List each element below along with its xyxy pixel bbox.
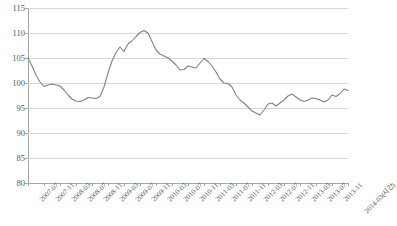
x-tick-mark	[316, 183, 317, 186]
y-axis-labels: 80859095100105110115	[0, 8, 25, 183]
x-tick-mark	[188, 183, 189, 186]
y-tick-label: 80	[17, 179, 26, 188]
x-tick-mark	[204, 183, 205, 186]
x-tick-mark	[140, 183, 141, 186]
y-tick-label: 95	[17, 104, 26, 113]
series-polyline	[28, 31, 348, 116]
y-tick-label: 115	[13, 4, 25, 13]
y-tick-label: 110	[13, 29, 25, 38]
x-tick-mark	[268, 183, 269, 186]
x-tick-mark	[172, 183, 173, 186]
x-tick-mark	[348, 183, 349, 186]
x-tick-mark	[92, 183, 93, 186]
x-tick-mark	[28, 183, 29, 186]
y-tick-label: 85	[17, 154, 26, 163]
x-tick-mark	[124, 183, 125, 186]
x-tick-mark	[108, 183, 109, 186]
plot-area	[28, 8, 348, 183]
x-tick-mark	[284, 183, 285, 186]
x-tick-mark	[60, 183, 61, 186]
x-tick-mark	[156, 183, 157, 186]
x-tick-mark	[220, 183, 221, 186]
y-tick-label: 90	[17, 129, 26, 138]
x-tick-mark	[252, 183, 253, 186]
x-tick-mark	[44, 183, 45, 186]
x-tick-mark	[300, 183, 301, 186]
x-tick-mark	[332, 183, 333, 186]
y-tick-label: 105	[12, 54, 25, 63]
x-tick-mark	[76, 183, 77, 186]
y-tick-label: 100	[12, 79, 25, 88]
x-tick-label: 2014-03(시간)	[364, 182, 397, 215]
x-tick-mark	[236, 183, 237, 186]
series-line	[28, 8, 348, 183]
